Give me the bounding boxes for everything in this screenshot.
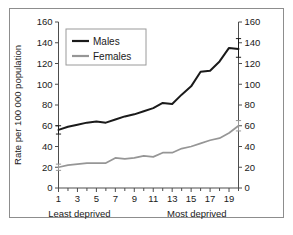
x-axis-tick-label: 7 [113,193,118,204]
left-y-axis: 020406080100120140160 [37,16,59,193]
legend-label-females: Females [93,51,131,62]
right-y-axis-tick-label: 160 [245,16,261,27]
chart-legend: MalesFemales [66,29,146,65]
right-y-axis: 020406080100120140160 [239,16,261,193]
x-axis-caption-most-deprived: Most deprived [167,208,227,219]
right-y-axis-tick-label: 60 [245,120,256,131]
x-axis-tick-label: 19 [224,193,235,204]
right-y-axis-tick-label: 80 [245,99,256,110]
right-y-axis-tick-label: 40 [245,141,256,152]
y-axis-tick-label: 40 [42,141,53,152]
y-axis-tick-label: 140 [37,37,53,48]
right-y-axis-tick-label: 0 [245,182,250,193]
x-axis: 135791113151719 [56,188,239,204]
legend-label-males: Males [93,36,120,47]
x-axis-captions: Least deprivedMost deprived [48,208,226,219]
x-axis-tick-label: 13 [167,193,178,204]
y-axis-tick-label: 0 [47,182,52,193]
x-axis-tick-label: 9 [132,193,137,204]
y-axis-title-text: Rate per 100 000 population [12,45,23,165]
x-axis-tick-label: 5 [94,193,99,204]
x-axis-tick-label: 15 [186,193,197,204]
right-y-axis-tick-label: 120 [245,58,261,69]
x-axis-tick-label: 11 [148,193,158,204]
x-axis-tick-label: 3 [75,193,80,204]
y-axis-tick-label: 20 [42,162,53,173]
chart-plot: Rate per 100 000 population 020406080100… [0,0,293,235]
y-axis-tick-label: 100 [37,79,53,90]
x-axis-caption-least-deprived: Least deprived [48,208,110,219]
x-axis-tick-label: 17 [205,193,216,204]
figure-container: Rate per 100 000 population 020406080100… [0,0,293,235]
series-line-females [59,126,239,168]
x-axis-tick-label: 1 [56,193,61,204]
y-axis-tick-label: 120 [37,58,53,69]
y-axis-tick-label: 80 [42,99,53,110]
y-axis-tick-label: 60 [42,120,53,131]
y-axis-title: Rate per 100 000 population [12,45,23,165]
right-y-axis-tick-label: 140 [245,37,261,48]
y-axis-tick-label: 160 [37,16,53,27]
right-y-axis-tick-label: 20 [245,162,256,173]
right-y-axis-tick-label: 100 [245,79,261,90]
data-series-group [59,48,239,167]
